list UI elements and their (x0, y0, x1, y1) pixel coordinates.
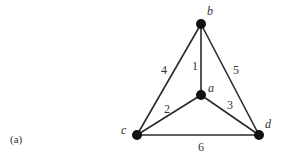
nodes (132, 19, 264, 140)
edge-weight-a-d: 3 (227, 98, 233, 112)
edge-weight-b-d: 5 (233, 63, 239, 77)
edge-weight-b-a: 1 (192, 59, 198, 73)
edge-b-d (201, 24, 259, 135)
weighted-graph-diagram: b a c d 1 2 3 4 5 6 (a) (0, 0, 288, 159)
edge-weight-c-d: 6 (198, 140, 204, 154)
node-c (132, 130, 142, 140)
edge-b-c (137, 24, 201, 135)
edge-weight-b-c: 4 (161, 63, 167, 77)
node-label-c: c (121, 123, 127, 137)
node-label-b: b (207, 4, 213, 18)
node-b (196, 19, 206, 29)
edge-weight-c-a: 2 (164, 102, 170, 116)
node-a (196, 90, 206, 100)
node-d (254, 130, 264, 140)
node-label-a: a (208, 81, 214, 95)
figure-caption: (a) (10, 133, 23, 146)
edges (137, 24, 259, 135)
node-label-d: d (265, 117, 272, 131)
